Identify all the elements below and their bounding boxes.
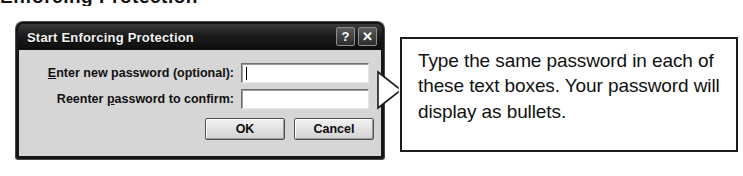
confirm-password-label: Reenter password to confirm: bbox=[19, 92, 241, 106]
new-password-label-rest: nter new password (optional): bbox=[56, 66, 234, 80]
callout-text: Type the same password in each of these … bbox=[418, 48, 724, 124]
close-button[interactable]: ✕ bbox=[358, 27, 377, 46]
text-cursor bbox=[246, 67, 247, 80]
help-button[interactable]: ? bbox=[336, 27, 355, 46]
confirm-password-accelerator: p bbox=[107, 92, 115, 106]
cancel-button[interactable]: Cancel bbox=[294, 118, 374, 140]
confirm-password-label-pre: Reenter bbox=[57, 92, 107, 106]
new-password-label: Enter new password (optional): bbox=[19, 66, 241, 80]
clipped-heading-text: Enforcing Protection bbox=[0, 0, 340, 6]
callout-arrow-icon bbox=[377, 71, 402, 109]
callout-box: Type the same password in each of these … bbox=[400, 37, 738, 152]
new-password-row: Enter new password (optional): bbox=[19, 62, 381, 83]
confirm-password-input[interactable] bbox=[241, 89, 369, 109]
ok-button[interactable]: OK bbox=[205, 118, 285, 140]
confirm-password-label-rest: assword to confirm: bbox=[115, 92, 234, 106]
dialog-client-area: Enter new password (optional): Reenter p… bbox=[19, 50, 381, 155]
titlebar-button-group: ? ✕ bbox=[336, 27, 377, 46]
dialog-titlebar[interactable]: Start Enforcing Protection ? ✕ bbox=[18, 24, 382, 50]
confirm-password-row: Reenter password to confirm: bbox=[19, 88, 381, 109]
new-password-accelerator: E bbox=[48, 66, 56, 80]
dialog-title: Start Enforcing Protection bbox=[27, 30, 194, 45]
start-enforcing-protection-dialog: Start Enforcing Protection ? ✕ Enter new… bbox=[16, 22, 384, 159]
new-password-input[interactable] bbox=[241, 63, 369, 83]
